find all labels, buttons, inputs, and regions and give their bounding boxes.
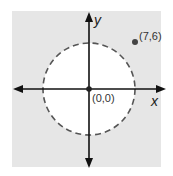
coordinate-diagram: [0, 0, 173, 176]
point-label: (7,6): [139, 31, 162, 42]
origin-point: [86, 86, 92, 92]
point-7-6: [132, 39, 138, 45]
origin-label: (0,0): [92, 93, 115, 104]
y-axis-label: y: [94, 13, 101, 27]
x-axis-label: x: [151, 94, 158, 108]
